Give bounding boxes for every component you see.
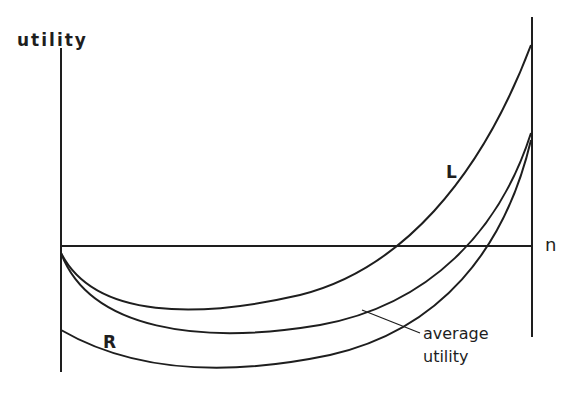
label-L: L (446, 162, 457, 182)
y-axis-label: utility (17, 30, 88, 50)
average-label-line2: utility (423, 347, 469, 366)
label-R: R (103, 332, 116, 352)
curve-L (61, 45, 531, 309)
average-label-line1: average (423, 324, 489, 343)
utility-diagram: utility n L R average utility (0, 0, 583, 394)
x-axis-label: n (545, 234, 556, 255)
